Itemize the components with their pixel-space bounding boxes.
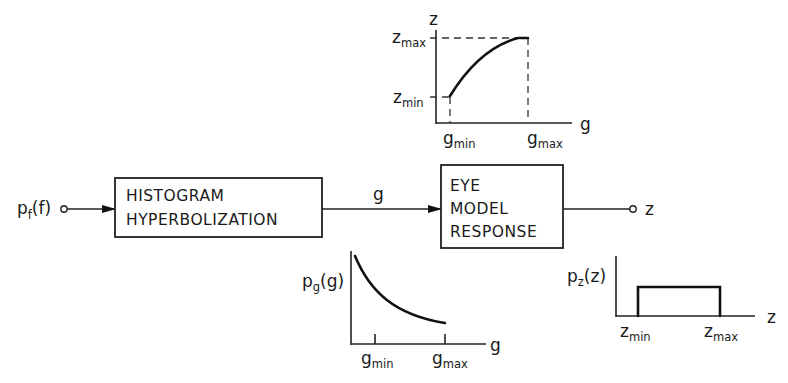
zmin-label: zmin — [393, 87, 424, 110]
block-line-1: EYE — [450, 177, 481, 195]
block-diagram: z zmax zmin g gmin gmax pf(f) HISTOGRAM … — [0, 0, 788, 383]
block-line-1: HISTOGRAM — [126, 187, 224, 205]
x-axis-label: g — [490, 335, 501, 355]
block-histogram-hyperbolization: HISTOGRAM HYPERBOLIZATION — [115, 178, 322, 237]
y-axis-label: z — [429, 9, 438, 29]
g-signal-label: g — [373, 184, 384, 204]
gmax-label: gmax — [432, 348, 468, 371]
input-label: pf(f) — [17, 198, 51, 222]
block-line-2: HYPERBOLIZATION — [126, 211, 278, 229]
x-axis-label: z — [767, 307, 776, 327]
zmax-label: zmax — [704, 321, 738, 344]
input-terminal-icon — [61, 206, 67, 212]
output-label: z — [645, 199, 654, 219]
y-axis-label: pg(g) — [302, 271, 344, 294]
response-curve — [450, 38, 528, 96]
output-terminal-icon — [630, 206, 636, 212]
block-line-3: RESPONSE — [450, 223, 537, 241]
hyperbolic-curve — [355, 256, 445, 323]
block-line-2: MODEL — [450, 200, 508, 218]
uniform-rectangle — [638, 287, 720, 316]
block-eye-model-response: EYE MODEL RESPONSE — [441, 165, 563, 248]
zmin-label: zmin — [620, 321, 651, 344]
gmin-label: gmin — [443, 128, 475, 151]
gmax-label: gmax — [527, 128, 563, 151]
gmin-label: gmin — [361, 348, 393, 371]
uniform-pdf-plot: pz(z) z zmin zmax — [567, 256, 776, 344]
x-axis-label: g — [580, 114, 591, 134]
eye-response-plot: z zmax zmin g gmin gmax — [392, 9, 591, 151]
y-axis-label: pz(z) — [567, 266, 606, 289]
hyperbolic-pdf-plot: pg(g) g gmin gmax — [302, 251, 501, 371]
zmax-label: zmax — [392, 27, 426, 50]
signal-flow: pf(f) HISTOGRAM HYPERBOLIZATION g EYE MO… — [17, 165, 654, 248]
